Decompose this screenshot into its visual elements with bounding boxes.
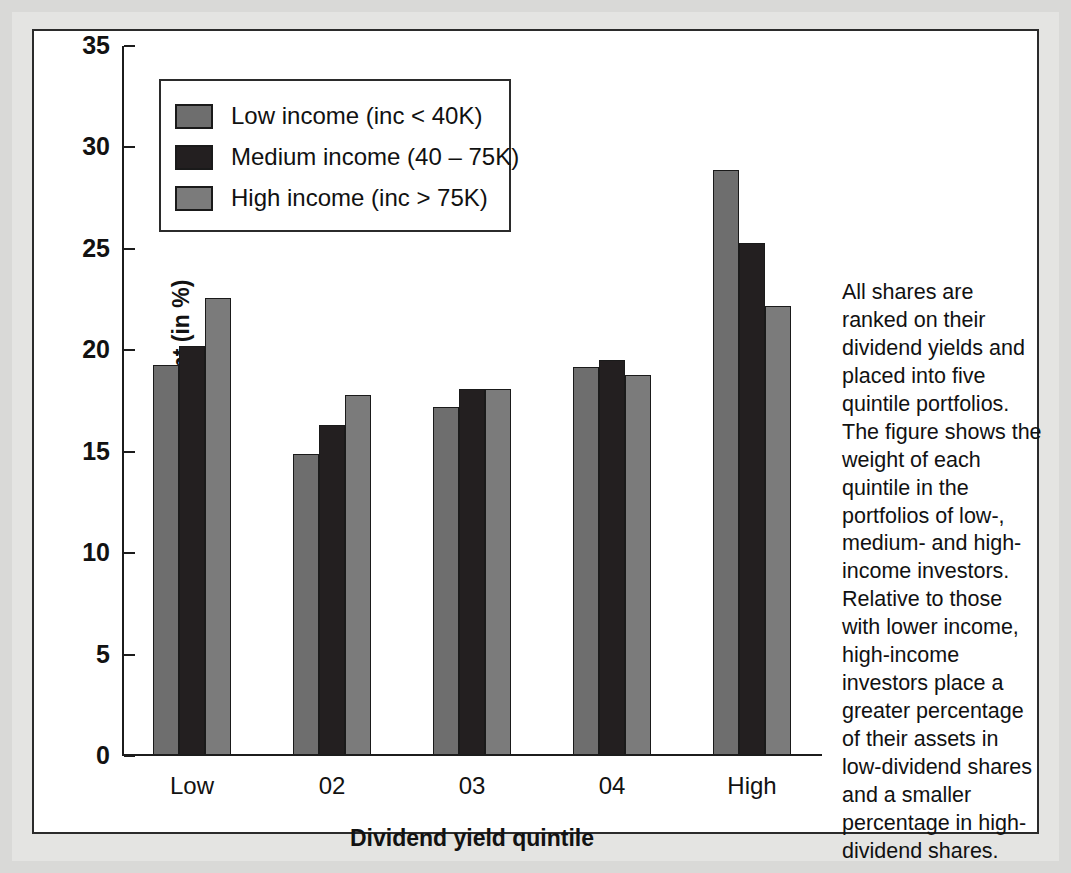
y-axis-tick-label: 5 (50, 642, 110, 667)
bar-group: High (682, 170, 822, 754)
legend-item: High income (inc > 75K) (175, 184, 495, 212)
y-axis-tick-label: 15 (50, 439, 110, 464)
bar (205, 298, 231, 754)
x-axis-category-label: 04 (532, 774, 692, 798)
x-axis-category-label: Low (112, 774, 272, 798)
x-axis-category-label: High (672, 774, 832, 798)
bar (345, 395, 371, 754)
y-axis-tick-label: 25 (50, 236, 110, 261)
legend-label: Medium income (40 – 75K) (231, 143, 519, 171)
y-axis-tick (124, 45, 135, 47)
bar (153, 365, 179, 754)
legend-label: Low income (inc < 40K) (231, 102, 482, 130)
bar-group: 03 (402, 389, 542, 754)
y-axis-tick (124, 755, 135, 757)
bar (713, 170, 739, 754)
bar-group: Low (122, 298, 262, 754)
bar (485, 389, 511, 754)
figure-panel: 05101520253035 Portfolio weight (in %) L… (32, 29, 1039, 834)
bar (739, 243, 765, 754)
legend-item: Medium income (40 – 75K) (175, 143, 495, 171)
annotation-text: All shares are ranked on their dividend … (842, 279, 1042, 866)
bar (599, 360, 625, 754)
chart-legend: Low income (inc < 40K)Medium income (40 … (159, 79, 511, 232)
bar (319, 425, 345, 754)
bar (765, 306, 791, 754)
bar (179, 346, 205, 754)
legend-swatch (175, 186, 213, 211)
y-axis-tick (124, 248, 135, 250)
bar-group: 02 (262, 395, 402, 754)
bar (433, 407, 459, 754)
y-axis-tick-label: 30 (50, 134, 110, 159)
y-axis-tick-label: 35 (50, 33, 110, 58)
y-axis-tick-label: 10 (50, 540, 110, 565)
legend-label: High income (inc > 75K) (231, 184, 488, 212)
bar (459, 389, 485, 754)
y-axis-tick (124, 146, 135, 148)
bar-group: 04 (542, 360, 682, 754)
y-axis-tick-label: 0 (50, 743, 110, 768)
x-axis-category-label: 03 (392, 774, 552, 798)
legend-swatch (175, 145, 213, 170)
x-axis-title: Dividend yield quintile (122, 825, 822, 852)
bar (293, 454, 319, 754)
x-axis-category-label: 02 (252, 774, 412, 798)
legend-swatch (175, 104, 213, 129)
legend-item: Low income (inc < 40K) (175, 102, 495, 130)
bar (573, 367, 599, 754)
x-axis-line (122, 754, 822, 756)
figure-frame: 05101520253035 Portfolio weight (in %) L… (12, 12, 1059, 861)
y-axis-tick-label: 20 (50, 337, 110, 362)
bar (625, 375, 651, 754)
